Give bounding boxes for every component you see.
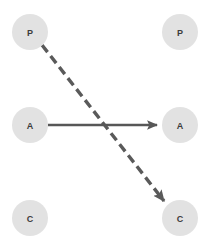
node-label: P — [177, 28, 183, 38]
node-label: C — [27, 214, 34, 224]
node-c-left[interactable]: C — [12, 200, 48, 236]
node-label: A — [27, 121, 34, 131]
node-c-right[interactable]: C — [162, 200, 198, 236]
node-a-left[interactable]: A — [12, 107, 48, 143]
diagram-svg: P P A A C C — [0, 0, 206, 243]
node-label: P — [27, 28, 33, 38]
node-p-right[interactable]: P — [162, 14, 198, 50]
diagram-canvas: P P A A C C — [0, 0, 206, 243]
edge-dashed-p-to-c — [42, 45, 164, 201]
node-label: A — [177, 121, 184, 131]
node-label: C — [177, 214, 184, 224]
edge-group — [42, 45, 164, 201]
node-a-right[interactable]: A — [162, 107, 198, 143]
node-p-left[interactable]: P — [12, 14, 48, 50]
